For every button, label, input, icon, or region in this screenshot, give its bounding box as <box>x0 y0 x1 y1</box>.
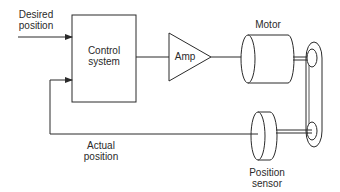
bottom-pulley <box>307 122 317 140</box>
top-pulley <box>307 49 317 67</box>
actual-position-line2: position <box>76 151 126 162</box>
position-sensor-disk <box>251 112 277 160</box>
position-sensor-line1: Position <box>244 167 290 178</box>
motor-cylinder <box>241 35 294 83</box>
control-system-label: Control system <box>72 45 136 67</box>
position-sensor-line2: sensor <box>244 178 290 189</box>
desired-position-label: Desired position <box>14 9 58 31</box>
actual-position-label: Actual position <box>76 140 126 162</box>
actual-position-line1: Actual <box>76 140 126 151</box>
position-sensor-label: Position sensor <box>244 167 290 189</box>
motor-label: Motor <box>248 19 288 30</box>
feedback-line <box>50 80 258 134</box>
amp-label: Amp <box>170 51 200 62</box>
control-system-line1: Control <box>72 45 136 56</box>
control-system-line2: system <box>72 56 136 67</box>
desired-position-line2: position <box>14 20 58 31</box>
desired-position-line1: Desired <box>14 9 58 20</box>
